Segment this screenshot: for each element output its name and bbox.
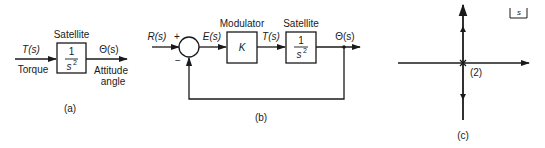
caption-b: (b) <box>255 112 267 123</box>
satellite-title-b: Satellite <box>283 18 319 29</box>
torque-label: Torque <box>18 64 49 75</box>
plus-sign: + <box>174 31 180 42</box>
reference-signal-label: R(s) <box>148 31 167 42</box>
s-plane-label: s <box>517 8 521 17</box>
panel-b-closed-loop: R(s) + − E(s) Modulator K T(s) Satellite… <box>148 18 360 123</box>
locus-arrow-up <box>460 26 466 32</box>
panel-c-root-locus: (2) s (c) <box>398 5 529 141</box>
input-signal-label: T(s) <box>22 44 40 55</box>
numerator: 1 <box>69 46 75 57</box>
denominator-exponent-b: 2 <box>303 47 307 54</box>
locus-arrow-down <box>460 94 466 100</box>
summing-junction <box>179 37 199 57</box>
attitude-label: Attitude <box>94 65 128 76</box>
angle-label: angle <box>101 76 126 87</box>
diagram-canvas: 1 s 2 Satellite T(s) Torque Θ(s) Attitud… <box>0 0 545 148</box>
caption-c: (c) <box>457 130 469 141</box>
denominator: s <box>67 61 72 72</box>
torque-signal-label: T(s) <box>262 31 280 42</box>
caption-a: (a) <box>64 103 76 114</box>
denominator-b: s <box>297 49 302 60</box>
panel-a-open-loop: 1 s 2 Satellite T(s) Torque Θ(s) Attitud… <box>15 29 128 114</box>
feedback-path <box>189 47 344 99</box>
satellite-title: Satellite <box>54 29 90 40</box>
minus-sign: − <box>175 55 181 66</box>
output-signal-label-b: Θ(s) <box>335 31 354 42</box>
modulator-title: Modulator <box>220 18 265 29</box>
denominator-exponent: 2 <box>73 59 77 66</box>
pole-multiplicity: (2) <box>470 67 482 78</box>
numerator-b: 1 <box>298 35 304 46</box>
output-signal-label: Θ(s) <box>99 44 118 55</box>
error-signal-label: E(s) <box>203 31 221 42</box>
